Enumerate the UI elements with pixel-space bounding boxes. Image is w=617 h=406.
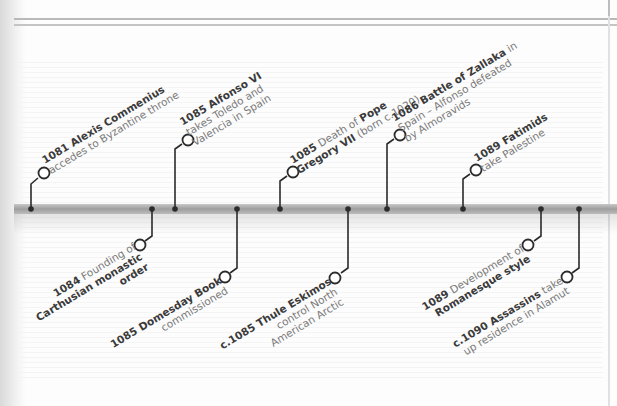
connector-1089-fatimids	[460, 165, 481, 212]
connector-1086-zallaka	[384, 130, 405, 212]
connector-1085-pope	[277, 167, 298, 212]
connector-1089-romanesque	[523, 206, 544, 250]
connector-1084-carthusian	[135, 206, 155, 250]
connector-1085-thule	[330, 206, 351, 283]
connector-1090-assassins	[562, 206, 582, 282]
connector-1085-domesday	[220, 206, 240, 282]
book-page: 1081 Alexis Commenius accedes to Byzanti…	[0, 0, 617, 406]
connector-1081-alexis	[28, 168, 49, 212]
connector-1085-alfonso	[172, 135, 193, 212]
